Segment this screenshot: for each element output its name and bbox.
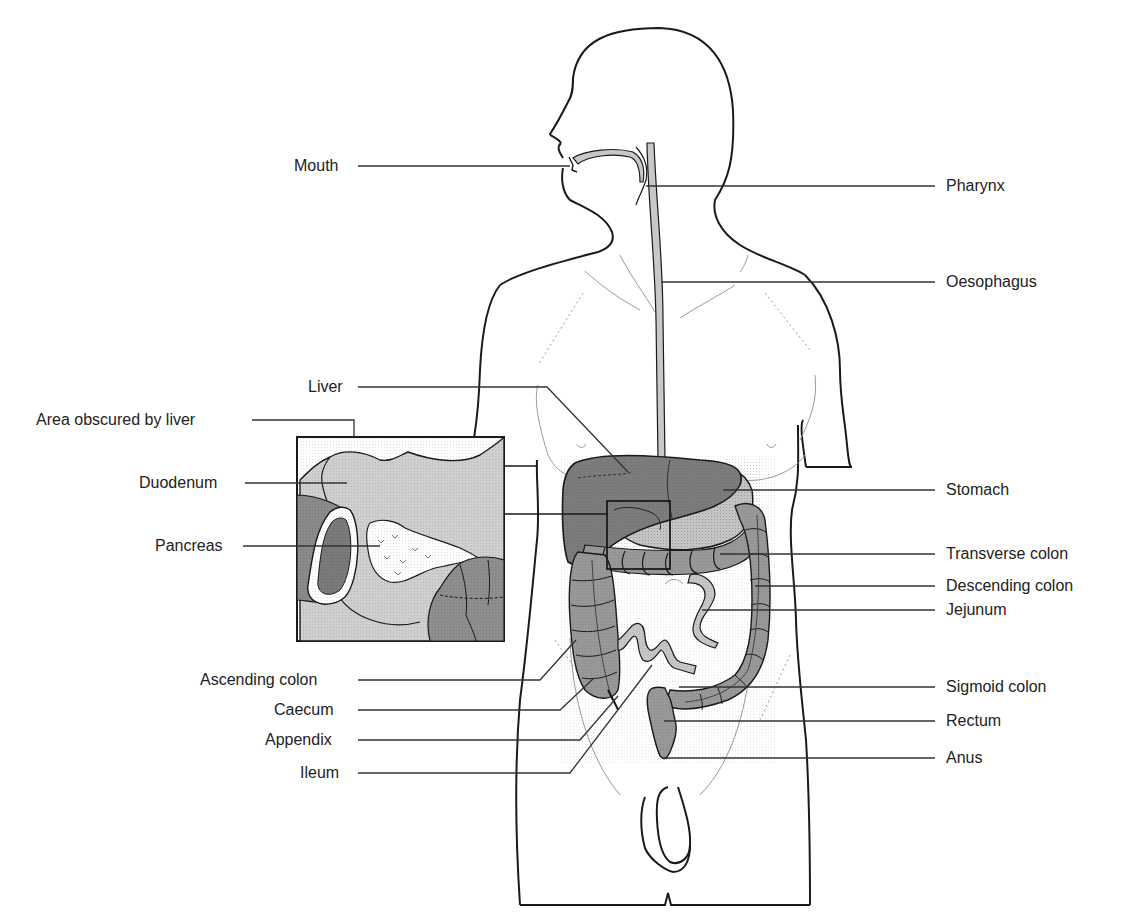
label-anus: Anus [946,749,982,767]
inset-panel [297,437,504,641]
pharynx-shape [569,147,647,205]
label-jejunum: Jejunum [946,601,1006,619]
label-caecum: Caecum [274,701,334,719]
ascending-colon-shape [569,552,619,710]
label-descending-colon: Descending colon [946,577,1073,595]
label-pancreas: Pancreas [155,537,223,555]
label-stomach: Stomach [946,481,1009,499]
oesophagus-shape [647,143,665,460]
label-sigmoid-colon: Sigmoid colon [946,678,1047,696]
label-ileum: Ileum [300,764,339,782]
jejunum-shape [688,574,718,648]
label-rectum: Rectum [946,712,1001,730]
label-duodenum: Duodenum [139,474,217,492]
digestive-system-diagram [0,0,1129,912]
label-transverse-colon: Transverse colon [946,545,1068,563]
label-area-obscured-by-liver: Area obscured by liver [36,411,195,429]
label-oesophagus: Oesophagus [946,273,1037,291]
ileum-shape [618,623,696,674]
label-mouth: Mouth [294,157,338,175]
label-pharynx: Pharynx [946,177,1005,195]
label-appendix: Appendix [265,731,332,749]
label-liver: Liver [308,378,343,396]
label-ascending-colon: Ascending colon [200,671,317,689]
